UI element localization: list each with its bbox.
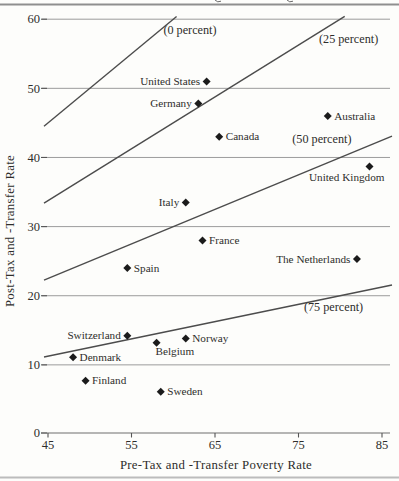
data-point-label: Finland	[92, 374, 127, 386]
data-point-label: Italy	[159, 196, 180, 208]
poverty-reduction-scatter-chart: 01020304050604555657585(0 percent)(25 pe…	[0, 0, 399, 481]
data-point-diamond	[324, 112, 332, 120]
x-tick-label: 65	[209, 438, 222, 452]
data-point-diamond	[365, 162, 373, 170]
y-tick-label: 50	[28, 82, 41, 96]
data-point-diamond	[123, 264, 131, 272]
data-point-diamond	[353, 255, 361, 263]
data-point-label: Switzerland	[67, 329, 121, 341]
title-descender-fragment	[287, 0, 293, 2]
data-point-label: Australia	[334, 110, 375, 122]
y-tick-label: 0	[34, 426, 40, 440]
data-point-label: United Kingdom	[309, 171, 385, 183]
reduction-line	[44, 16, 345, 203]
data-point-diamond	[82, 377, 90, 385]
reduction-line-label: (25 percent)	[319, 32, 378, 46]
data-point-label: Spain	[134, 262, 160, 274]
data-point-diamond	[203, 77, 211, 85]
y-tick-label: 40	[28, 151, 41, 165]
x-tick-label: 55	[125, 438, 138, 452]
data-point-label: France	[209, 234, 239, 246]
data-point-diamond	[215, 133, 223, 141]
y-tick-label: 60	[28, 12, 41, 26]
reduction-line-label: (0 percent)	[163, 23, 216, 37]
data-point-label: Canada	[226, 130, 260, 142]
y-tick-label: 30	[28, 220, 41, 234]
reduction-line-label: (75 percent)	[304, 300, 363, 314]
data-point-label: Germany	[150, 97, 192, 109]
data-point-diamond	[182, 198, 190, 206]
x-tick-label: 45	[42, 438, 55, 452]
scatter-plot-page: 01020304050604555657585(0 percent)(25 pe…	[0, 0, 399, 481]
x-tick-label: 75	[292, 438, 305, 452]
data-point-diamond	[182, 335, 190, 343]
data-point-label: Norway	[192, 332, 228, 344]
data-point-label: United States	[140, 75, 200, 87]
x-axis-title: Pre-Tax and -Transfer Poverty Rate	[120, 458, 312, 472]
y-axis-title: Post-Tax and -Transfer Rate	[3, 155, 17, 307]
data-point-label: Belgium	[156, 345, 195, 357]
data-point-label: Denmark	[80, 351, 122, 363]
reduction-line-label: (50 percent)	[292, 132, 351, 146]
data-point-diamond	[69, 353, 77, 361]
data-point-diamond	[157, 388, 165, 396]
data-point-label: The Netherlands	[276, 253, 350, 265]
y-tick-label: 10	[28, 358, 41, 372]
title-descender-fragment	[215, 0, 221, 2]
reduction-line	[44, 16, 177, 126]
y-tick-label: 20	[28, 289, 41, 303]
data-point-label: Sweden	[167, 385, 203, 397]
x-tick-label: 85	[376, 438, 389, 452]
data-point-diamond	[198, 236, 206, 244]
